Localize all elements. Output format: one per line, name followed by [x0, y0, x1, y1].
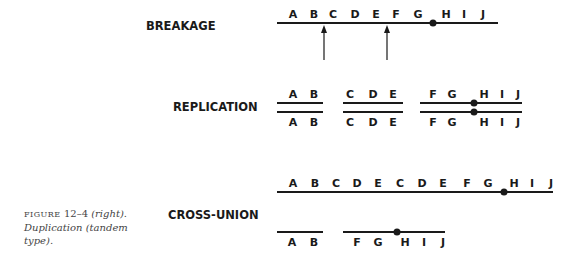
cross-union-long-gene-i: I: [530, 177, 534, 190]
cross-union-short-gene-b: B: [310, 236, 318, 249]
cross-union-long-gene-d: D: [352, 177, 361, 190]
cross-union-long-gene-e: E: [439, 177, 447, 190]
cross-union-long-gene-c: C: [396, 177, 404, 190]
caption-figure-label: FIGURE: [24, 210, 61, 219]
breakage-gene-d: D: [350, 8, 359, 21]
cross-union-short-gene-a: A: [288, 236, 297, 249]
cross-union-long-gene-c: C: [332, 177, 340, 190]
breakage-gene-f: F: [392, 8, 400, 21]
breakage-title: BREAKAGE: [146, 19, 216, 33]
break-arrow-ef-head: [384, 25, 390, 33]
breakage-gene-i: I: [462, 8, 466, 21]
cross-union-long-gene-e: E: [374, 177, 382, 190]
replication-title: REPLICATION: [173, 100, 258, 114]
breakage-gene-a: A: [289, 8, 298, 21]
breakage-centromere: [430, 20, 437, 27]
breakage-gene-e: E: [372, 8, 380, 21]
replication-bottom-gene-j: J: [515, 116, 520, 129]
cross-union-long-gene-d: D: [417, 177, 426, 190]
caption-position: (right).: [91, 208, 127, 219]
cross-union-short-gene-h: H: [400, 236, 409, 249]
cross-union-long-centromere: [501, 189, 508, 196]
replication-bottom-gene-f: F: [429, 116, 437, 129]
replication-bottom-gene-c: C: [346, 116, 354, 129]
replication-bottom-gene-e: E: [389, 116, 397, 129]
replication-bottom-gene-h: H: [479, 116, 488, 129]
replication-top-gene-d: D: [368, 88, 377, 101]
breakage-gene-c: C: [329, 8, 337, 21]
cross-union-long-gene-g: G: [483, 177, 492, 190]
replication-top-gene-f: F: [429, 88, 437, 101]
breakage-gene-h: H: [441, 8, 450, 21]
replication-bottom-gene-i: I: [500, 116, 504, 129]
cross-union-long-gene-h: H: [509, 177, 518, 190]
cross-union-long-gene-f: F: [463, 177, 471, 190]
replication-top-gene-j: J: [515, 88, 520, 101]
replication-top-gene-b: B: [310, 88, 318, 101]
cross-union-short-gene-g: G: [373, 236, 382, 249]
cross-union-long-gene-a: A: [289, 177, 298, 190]
cross-union-short-centromere: [394, 229, 401, 236]
replication-bottom-gene-g: G: [447, 116, 456, 129]
breakage-gene-b: B: [310, 8, 318, 21]
breakage-gene-j: J: [480, 8, 485, 21]
replication-top-gene-h: H: [479, 88, 488, 101]
replication-top-gene-a: A: [289, 88, 298, 101]
caption-line2: Duplication (tandem: [24, 222, 128, 233]
break-arrow-bc-head: [321, 25, 327, 33]
cross-union-long-gene-j: J: [548, 177, 553, 190]
replication-bottom-gene-a: A: [289, 116, 298, 129]
figure-caption: FIGURE 12–4 (right). Duplication (tandem…: [24, 207, 144, 247]
replication-bottom-gene-d: D: [368, 116, 377, 129]
cross-union-long-gene-b: B: [311, 177, 319, 190]
replication-top-gene-i: I: [500, 88, 504, 101]
replication-centromere-bottom: [471, 109, 478, 116]
caption-line3: type).: [24, 235, 53, 246]
breakage-gene-g: G: [413, 8, 422, 21]
replication-top-gene-e: E: [389, 88, 397, 101]
replication-top-gene-c: C: [346, 88, 354, 101]
replication-bottom-gene-b: B: [310, 116, 318, 129]
caption-figure-number: 12–4: [64, 208, 88, 219]
cross-union-title: CROSS-UNION: [168, 208, 259, 222]
replication-centromere-top: [471, 100, 478, 107]
cross-union-short-gene-j: J: [440, 236, 445, 249]
cross-union-short-gene-i: I: [422, 236, 426, 249]
cross-union-short-gene-f: F: [353, 236, 361, 249]
replication-top-gene-g: G: [447, 88, 456, 101]
